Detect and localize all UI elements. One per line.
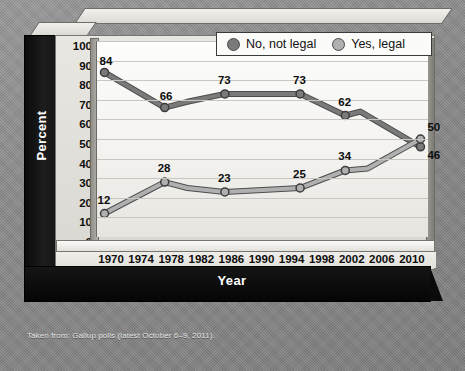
data-point-marker[interactable] [296, 184, 304, 192]
y-axis-title: Percent [34, 86, 49, 186]
y-axis-ticks: 1009080706050403020100 [56, 38, 92, 256]
data-point-value-label: 66 [160, 90, 173, 102]
data-point-value-label: 23 [218, 172, 231, 184]
data-point-value-label: 12 [98, 194, 111, 206]
y-tick-label: 40 [56, 159, 92, 169]
x-tick-label: 1998 [305, 253, 339, 265]
data-point-marker[interactable] [101, 68, 109, 76]
legend-marker-icon [332, 38, 345, 51]
gridline [97, 139, 428, 140]
plot-bottom-shelf [56, 240, 435, 252]
series-line-outline [105, 72, 421, 146]
x-tick-label: 1978 [154, 253, 188, 265]
chart-legend: No, not legal Yes, legal [216, 32, 432, 56]
legend-item-yes[interactable]: Yes, legal [332, 37, 405, 51]
data-point-marker[interactable] [221, 188, 229, 196]
gridline [97, 159, 428, 160]
data-point-value-label: 73 [218, 74, 231, 86]
x-tick-label: 1974 [124, 253, 158, 265]
data-point-value-label: 28 [158, 162, 171, 174]
data-point-value-label: 84 [100, 55, 113, 67]
gridline [97, 61, 428, 62]
x-tick-label: 1982 [184, 253, 218, 265]
x-tick-label: 1986 [214, 253, 248, 265]
y-tick-label: 60 [56, 119, 92, 129]
source-caption: Taken from: Gallup polls (latest October… [27, 331, 215, 340]
chart-3d-frame: Percent 1009080706050403020100 197019741… [22, 8, 440, 300]
data-point-value-label: 62 [338, 96, 351, 108]
legend-label-no: No, not legal [246, 37, 316, 51]
x-axis-title: Year [162, 273, 302, 288]
y-tick-label: 70 [56, 100, 92, 110]
gridline [97, 119, 428, 120]
legend-label-yes: Yes, legal [351, 37, 405, 51]
data-point-marker[interactable] [341, 166, 349, 174]
data-point-value-label: 25 [293, 168, 306, 180]
gridline [97, 198, 428, 199]
series-line [105, 139, 421, 214]
legend-item-no[interactable]: No, not legal [227, 37, 316, 51]
data-point-value-label: 46 [427, 149, 440, 161]
data-point-marker[interactable] [417, 143, 425, 151]
gridline [97, 178, 428, 179]
gridline [97, 100, 428, 101]
data-point-value-label: 73 [293, 74, 306, 86]
data-point-marker[interactable] [341, 112, 349, 120]
x-tick-label: 1994 [275, 253, 309, 265]
data-point-marker[interactable] [221, 90, 229, 98]
y-tick-label: 80 [56, 80, 92, 90]
series-line [105, 72, 421, 146]
x-tick-label: 2006 [365, 253, 399, 265]
x-tick-label: 2010 [395, 253, 429, 265]
plot-area [96, 41, 428, 237]
frame-top-slab [74, 8, 453, 24]
x-tick-label: 1970 [94, 253, 128, 265]
data-point-marker[interactable] [101, 210, 109, 218]
data-point-value-label: 34 [338, 150, 351, 162]
x-tick-label: 1990 [245, 253, 279, 265]
legend-marker-icon [227, 38, 240, 51]
data-point-marker[interactable] [296, 90, 304, 98]
data-point-value-label: 50 [427, 121, 440, 133]
gridline [97, 80, 428, 81]
y-tick-label: 100 [56, 41, 92, 51]
gridline [97, 217, 428, 218]
y-tick-label: 20 [56, 198, 92, 208]
x-tick-label: 2002 [335, 253, 369, 265]
series-line-outline [105, 139, 421, 214]
y-tick-label: 90 [56, 61, 92, 71]
y-tick-label: 10 [56, 217, 92, 227]
y-tick-label: 30 [56, 178, 92, 188]
data-point-marker[interactable] [161, 104, 169, 112]
y-tick-label: 50 [56, 139, 92, 149]
data-point-marker[interactable] [161, 178, 169, 186]
